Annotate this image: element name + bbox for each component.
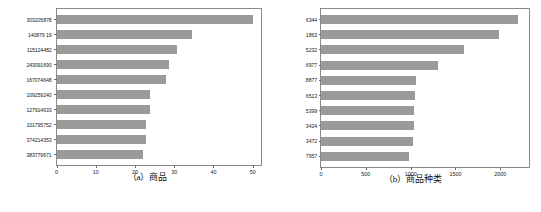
y-axis-tick-label: 374214353 bbox=[26, 137, 51, 143]
axes-frame-b: 6344186352326977887765135399342434727957… bbox=[320, 8, 530, 168]
bar-series-b: 6344186352326977887765135399342434727957 bbox=[321, 9, 529, 167]
bar-row: 303205878 bbox=[57, 15, 261, 24]
y-axis-tick-label: 7957 bbox=[306, 153, 317, 159]
bar bbox=[57, 135, 146, 144]
y-tick-mark bbox=[54, 94, 57, 95]
bar bbox=[321, 91, 415, 100]
y-axis-tick-label: 1863 bbox=[306, 32, 317, 38]
y-axis-tick-label: 140879 19 bbox=[28, 32, 52, 38]
bar-row: 5232 bbox=[321, 45, 529, 54]
y-axis-tick-label: 101795752 bbox=[26, 122, 51, 128]
bar bbox=[321, 76, 416, 85]
bar bbox=[57, 60, 170, 69]
y-tick-mark bbox=[54, 109, 57, 110]
axes-frame-a: 303205878140879 191151244822430916901670… bbox=[56, 8, 262, 166]
bar bbox=[57, 30, 192, 39]
bar bbox=[321, 121, 414, 130]
x-tick-mark bbox=[174, 165, 175, 168]
bar-row: 6513 bbox=[321, 91, 529, 100]
y-axis-tick-label: 127914633 bbox=[26, 107, 51, 113]
y-axis-tick-label: 3424 bbox=[306, 123, 317, 129]
x-axis-tick-label: 50 bbox=[250, 169, 256, 175]
y-tick-mark bbox=[319, 156, 322, 157]
x-axis-tick-label: 0 bbox=[320, 171, 323, 177]
y-axis-tick-label: 8877 bbox=[306, 77, 317, 83]
y-axis-tick-label: 6344 bbox=[306, 17, 317, 23]
y-tick-mark bbox=[54, 154, 57, 155]
x-axis-a: 01020304050 bbox=[57, 165, 261, 183]
bar-row: 374214353 bbox=[57, 135, 261, 144]
bar-row: 243091690 bbox=[57, 60, 261, 69]
y-tick-mark bbox=[54, 34, 57, 35]
y-axis-tick-label: 167074648 bbox=[26, 77, 51, 83]
x-tick-mark bbox=[213, 165, 214, 168]
bar bbox=[321, 106, 414, 115]
y-tick-mark bbox=[54, 139, 57, 140]
bar-row: 127914633 bbox=[57, 105, 261, 114]
x-tick-mark bbox=[57, 165, 58, 168]
y-tick-mark bbox=[54, 19, 57, 20]
bar-row: 7957 bbox=[321, 152, 529, 161]
x-axis-tick-label: 500 bbox=[361, 171, 370, 177]
x-axis-tick-label: 2000 bbox=[494, 171, 506, 177]
y-tick-mark bbox=[319, 110, 322, 111]
bar-row: 3424 bbox=[321, 121, 529, 130]
bar bbox=[321, 30, 499, 39]
bar-row: 383779671 bbox=[57, 150, 261, 159]
bar-row: 167074648 bbox=[57, 75, 261, 84]
chart-panel-a: 303205878140879 191151244822430916901670… bbox=[0, 0, 271, 212]
bar bbox=[57, 75, 167, 84]
y-tick-mark bbox=[54, 64, 57, 65]
y-tick-mark bbox=[319, 125, 322, 126]
y-tick-mark bbox=[319, 34, 322, 35]
x-axis-tick-label: 20 bbox=[132, 169, 138, 175]
bar-row: 6977 bbox=[321, 61, 529, 70]
bar-row: 140879 19 bbox=[57, 30, 261, 39]
y-tick-mark bbox=[319, 19, 322, 20]
x-tick-mark bbox=[135, 165, 136, 168]
y-axis-tick-label: 6977 bbox=[306, 62, 317, 68]
x-tick-mark bbox=[455, 167, 456, 170]
y-axis-tick-label: 109259240 bbox=[26, 92, 51, 98]
bar-row: 3472 bbox=[321, 137, 529, 146]
figure-container: 303205878140879 191151244822430916901670… bbox=[0, 0, 541, 212]
x-tick-mark bbox=[500, 167, 501, 170]
y-tick-mark bbox=[54, 79, 57, 80]
bar bbox=[321, 45, 464, 54]
bar-row: 115124482 bbox=[57, 45, 261, 54]
bar-row: 109259240 bbox=[57, 90, 261, 99]
bar-row: 5399 bbox=[321, 106, 529, 115]
y-axis-tick-label: 115124482 bbox=[27, 47, 52, 53]
x-tick-mark bbox=[366, 167, 367, 170]
x-axis-tick-label: 10 bbox=[93, 169, 99, 175]
x-axis-tick-label: 40 bbox=[210, 169, 216, 175]
y-tick-mark bbox=[319, 65, 322, 66]
y-axis-tick-label: 3472 bbox=[306, 138, 317, 144]
y-axis-tick-label: 6513 bbox=[306, 93, 317, 99]
y-tick-mark bbox=[319, 49, 322, 50]
y-axis-tick-label: 5399 bbox=[306, 108, 317, 114]
bar bbox=[57, 105, 150, 114]
x-tick-mark bbox=[253, 165, 254, 168]
bar-row: 6344 bbox=[321, 15, 529, 24]
x-tick-mark bbox=[96, 165, 97, 168]
bar bbox=[321, 61, 438, 70]
y-axis-tick-label: 5232 bbox=[306, 47, 317, 53]
x-axis-tick-label: 30 bbox=[171, 169, 177, 175]
bar-row: 101795752 bbox=[57, 120, 261, 129]
y-axis-tick-label: 303205878 bbox=[26, 17, 51, 23]
y-tick-mark bbox=[319, 141, 322, 142]
bar bbox=[57, 120, 146, 129]
bar bbox=[57, 150, 143, 159]
bar-row: 1863 bbox=[321, 30, 529, 39]
bar-series-a: 303205878140879 191151244822430916901670… bbox=[57, 9, 261, 165]
bar bbox=[321, 152, 409, 161]
bar bbox=[57, 45, 177, 54]
y-axis-tick-label: 383779671 bbox=[26, 152, 51, 158]
y-tick-mark bbox=[54, 49, 57, 50]
x-tick-mark bbox=[411, 167, 412, 170]
bar bbox=[321, 15, 518, 24]
plot-area-b: 6344186352326977887765135399342434727957… bbox=[282, 8, 530, 168]
bar bbox=[57, 15, 253, 24]
bar bbox=[321, 137, 413, 146]
